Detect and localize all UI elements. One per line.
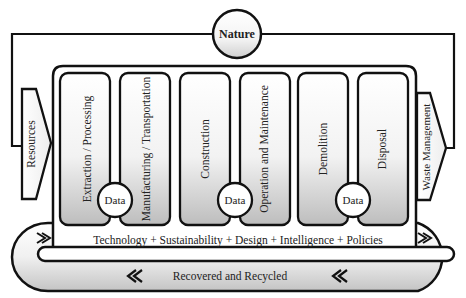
recycle-inner-bar <box>38 247 454 261</box>
data-label: Data <box>105 194 126 206</box>
data-node: Data <box>98 183 132 217</box>
data-node: Data <box>336 183 370 217</box>
lifecycle-diagram: Nature Extraction / Processing Manufactu… <box>0 0 466 298</box>
data-node: Data <box>218 183 252 217</box>
stage-label: Extraction / Processing <box>81 95 94 202</box>
resources-label: Resources <box>25 120 37 168</box>
waste-management-arrow: Waste Management <box>417 93 446 200</box>
data-label: Data <box>343 194 364 206</box>
stage-label: Manufacturing / Transportation <box>140 77 153 222</box>
stage-label: Demolition <box>317 123 329 176</box>
waste-management-label: Waste Management <box>420 104 432 191</box>
data-label: Data <box>225 194 246 206</box>
nature-node: Nature <box>213 10 261 58</box>
nature-label: Nature <box>219 27 255 41</box>
recycle-label: Recovered and Recycled <box>173 270 288 283</box>
resources-arrow: Resources <box>22 89 51 199</box>
enablers-label: Technology + Sustainability + Design + I… <box>93 234 383 247</box>
stage-label: Construction <box>199 119 211 179</box>
stage-label: Operation and Maintenance <box>258 85 271 213</box>
stage-label: Disposal <box>376 129 389 169</box>
